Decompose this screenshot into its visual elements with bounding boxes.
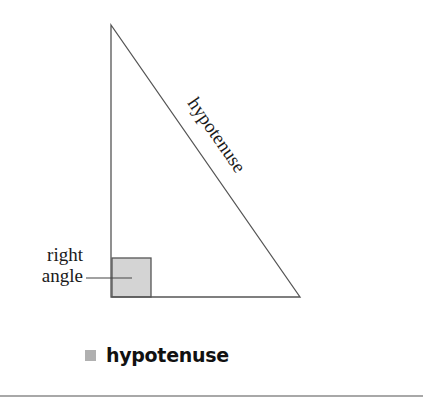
right-angle-label-line2: angle: [42, 265, 83, 286]
divider: [0, 395, 423, 397]
right-angle-label-line1: right: [47, 244, 84, 265]
term-heading: hypotenuse: [85, 344, 229, 366]
term-label: hypotenuse: [106, 344, 229, 366]
square-bullet-icon: [85, 350, 96, 361]
right-triangle: [111, 25, 300, 297]
hypotenuse-label: hypotenuse: [184, 93, 251, 176]
